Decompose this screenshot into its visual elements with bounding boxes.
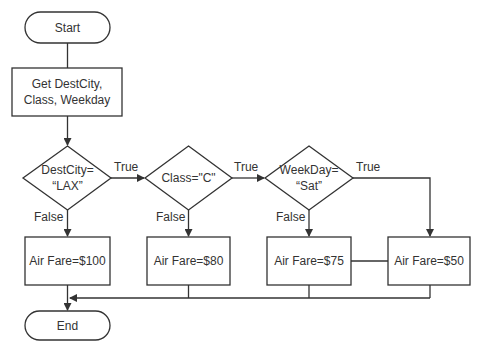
fare-50-label: Air Fare=$50	[388, 237, 470, 285]
edge-label-day-false: False	[276, 210, 305, 224]
decision-city-label: DestCity= “LAX”	[23, 146, 112, 210]
fare-100-text: Air Fare=$100	[29, 253, 105, 269]
end-text: End	[57, 318, 78, 334]
edge-label-day-true: True	[356, 160, 380, 174]
fare-75-label: Air Fare=$75	[267, 237, 351, 285]
input-label: Get DestCity, Class, Weekday	[12, 68, 122, 116]
edge-label-city-false: False	[34, 210, 63, 224]
fare-100-label: Air Fare=$100	[25, 237, 110, 285]
edge-label-city-true: True	[114, 160, 138, 174]
decision-class-label: Class="C"	[145, 146, 232, 210]
start-text: Start	[55, 20, 80, 36]
fare-80-text: Air Fare=$80	[154, 253, 224, 269]
edge-label-class-false: False	[156, 210, 185, 224]
edge-day-true	[353, 178, 430, 236]
start-label: Start	[25, 12, 110, 43]
edge-label-class-true: True	[234, 160, 258, 174]
fare-50-text: Air Fare=$50	[394, 253, 464, 269]
decision-day-line1: WeekDay=	[280, 162, 339, 178]
input-text-line1: Get DestCity,	[32, 76, 102, 92]
decision-city-line2: “LAX”	[52, 178, 83, 194]
decision-city-line1: DestCity=	[41, 162, 93, 178]
decision-day-line2: “Sat”	[296, 178, 322, 194]
fare-80-label: Air Fare=$80	[147, 237, 230, 285]
fare-75-text: Air Fare=$75	[274, 253, 344, 269]
end-label: End	[25, 311, 110, 340]
decision-class-text: Class="C"	[161, 170, 215, 186]
decision-day-label: WeekDay= “Sat”	[265, 146, 353, 210]
input-text-line2: Class, Weekday	[24, 92, 110, 108]
